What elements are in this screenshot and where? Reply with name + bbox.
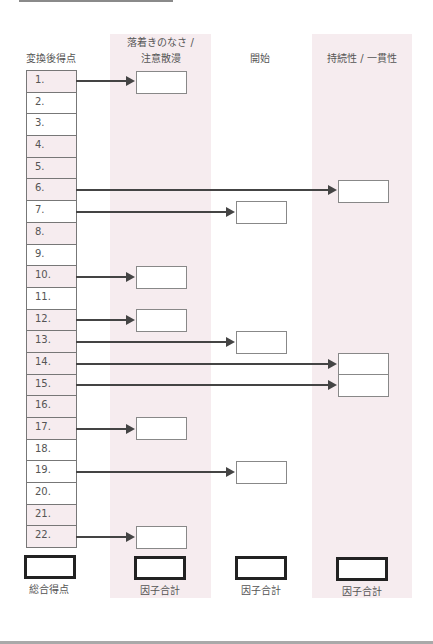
arrow-row-14-icon — [76, 363, 335, 365]
factor1-answer-box-row-10[interactable] — [136, 266, 187, 289]
factor1-answer-box-row-22[interactable] — [136, 526, 187, 549]
score-row-9[interactable]: 9. — [27, 245, 76, 267]
factor3-answer-box-row-15[interactable] — [338, 374, 389, 397]
arrow-row-12-icon — [76, 319, 133, 321]
score-row-11[interactable]: 11. — [27, 288, 76, 310]
arrow-row-22-icon — [76, 536, 133, 538]
factor3-total-box[interactable] — [336, 557, 388, 581]
factor3-answer-box-row-6[interactable] — [338, 180, 389, 203]
score-row-16[interactable]: 16. — [27, 396, 76, 418]
score-table: 1. 2. 3. 4. 5. 6. 7. 8. 9. 10. 11. 12. 1… — [26, 70, 77, 548]
top-rule — [19, 0, 173, 2]
score-row-22[interactable]: 22. — [27, 526, 76, 548]
factor1-total-box[interactable] — [134, 556, 186, 580]
factor2-header: 開始 — [220, 50, 300, 67]
score-row-19[interactable]: 19. — [27, 461, 76, 483]
arrow-row-1-icon — [76, 80, 133, 82]
factor2-total-label: 因子合計 — [226, 582, 296, 597]
score-row-18[interactable]: 18. — [27, 440, 76, 462]
factor3-header: 持続性 / 一貫性 — [312, 50, 412, 67]
total-score-box[interactable] — [24, 555, 76, 579]
score-row-10[interactable]: 10. — [27, 266, 76, 288]
score-row-1[interactable]: 1. — [27, 71, 76, 93]
score-row-4[interactable]: 4. — [27, 136, 76, 158]
arrow-row-10-icon — [76, 276, 133, 278]
factor2-total-box[interactable] — [235, 556, 287, 580]
arrow-row-19-icon — [76, 471, 233, 473]
factor1-header-line2: 注意散漫 — [110, 50, 211, 67]
factor3-total-label: 因子合計 — [327, 583, 397, 598]
score-row-17[interactable]: 17. — [27, 418, 76, 440]
score-column-header: 変換後得点 — [18, 50, 84, 67]
score-row-8[interactable]: 8. — [27, 223, 76, 245]
factor1-total-label: 因子合計 — [125, 582, 195, 597]
factor2-answer-box-row-19[interactable] — [236, 461, 287, 484]
score-row-13[interactable]: 13. — [27, 331, 76, 353]
score-row-2[interactable]: 2. — [27, 93, 76, 115]
arrow-row-7-icon — [76, 211, 233, 213]
factor1-header-line1: 落着きのなさ / — [110, 34, 211, 51]
factor3-band — [312, 34, 412, 598]
factor1-answer-box-row-12[interactable] — [136, 309, 187, 332]
factor2-answer-box-row-13[interactable] — [236, 331, 287, 354]
score-row-3[interactable]: 3. — [27, 114, 76, 136]
score-row-12[interactable]: 12. — [27, 310, 76, 332]
arrow-row-15-icon — [76, 384, 335, 386]
score-row-6[interactable]: 6. — [27, 179, 76, 201]
score-row-7[interactable]: 7. — [27, 201, 76, 223]
score-row-14[interactable]: 14. — [27, 353, 76, 375]
arrow-row-17-icon — [76, 428, 133, 430]
score-row-15[interactable]: 15. — [27, 375, 76, 397]
score-row-21[interactable]: 21. — [27, 505, 76, 527]
score-row-20[interactable]: 20. — [27, 483, 76, 505]
factor1-answer-box-row-1[interactable] — [136, 71, 187, 94]
arrow-row-6-icon — [76, 189, 335, 191]
score-row-5[interactable]: 5. — [27, 158, 76, 180]
arrow-row-13-icon — [76, 341, 233, 343]
total-score-label: 総合得点 — [14, 581, 84, 596]
factor3-answer-box-row-14[interactable] — [338, 353, 389, 376]
factor2-answer-box-row-7[interactable] — [236, 201, 287, 224]
factor1-answer-box-row-17[interactable] — [136, 417, 187, 440]
